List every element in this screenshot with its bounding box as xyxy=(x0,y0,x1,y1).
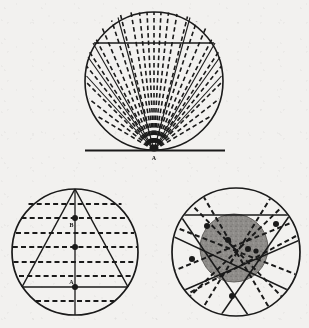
geometry-figures-svg: A xyxy=(0,0,309,328)
dashed-chord xyxy=(90,52,155,150)
intersection-point xyxy=(245,246,251,252)
figure-bottom-left: B A xyxy=(12,189,138,315)
dashed-chord xyxy=(112,20,154,150)
point-mid xyxy=(72,244,78,250)
illustration-page: A xyxy=(0,0,309,328)
intersection-point xyxy=(253,248,258,253)
intersection-point xyxy=(229,293,235,299)
dashed-chord xyxy=(154,82,222,150)
dashed-chord xyxy=(87,66,155,150)
dashed-chord xyxy=(154,66,222,150)
intersection-point xyxy=(225,237,231,243)
figure-top: A xyxy=(85,12,225,161)
dashed-chord xyxy=(154,52,219,150)
point-B xyxy=(72,215,78,221)
dashed-chord-pencil xyxy=(86,12,222,150)
bottom-left-label-A: A xyxy=(69,279,74,285)
intersection-point xyxy=(189,256,195,262)
tangency-point-A xyxy=(150,145,159,152)
figure-bottom-right xyxy=(171,188,300,316)
dashed-chord xyxy=(86,82,154,150)
intersection-point xyxy=(273,221,279,227)
bottom-left-label-B: B xyxy=(69,222,73,228)
intersection-point xyxy=(204,223,210,229)
top-figure-label-A: A xyxy=(152,155,157,161)
